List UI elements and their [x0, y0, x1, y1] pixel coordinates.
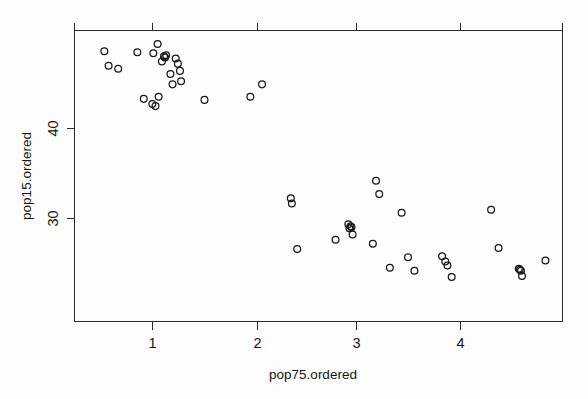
- data-point: [448, 274, 455, 281]
- y-axis-title: pop15.ordered: [19, 132, 34, 220]
- data-point: [542, 257, 549, 264]
- data-point: [178, 78, 185, 85]
- data-point: [411, 267, 418, 274]
- data-point: [405, 254, 412, 261]
- data-point: [177, 67, 184, 74]
- data-point: [134, 49, 141, 56]
- data-point: [442, 258, 449, 265]
- x-tick-label-2: 2: [253, 335, 261, 351]
- data-point: [150, 50, 157, 57]
- data-point: [386, 264, 393, 271]
- plot-canvas: 1 2 3 4 40 30 pop75.ordered pop15.ordere…: [0, 0, 588, 399]
- data-point: [349, 231, 356, 238]
- data-point: [294, 246, 301, 253]
- plot-frame: [74, 30, 563, 322]
- y-tick-label-30: 30: [45, 210, 61, 226]
- data-point: [167, 71, 174, 78]
- data-point: [259, 81, 266, 88]
- data-point: [376, 191, 383, 198]
- data-point: [398, 209, 405, 216]
- data-point: [444, 262, 451, 269]
- data-point: [115, 65, 122, 72]
- data-point: [373, 177, 380, 184]
- x-tick-label-1: 1: [148, 335, 156, 351]
- x-tick-label-3: 3: [352, 335, 360, 351]
- data-point: [201, 96, 208, 103]
- data-point: [332, 236, 339, 243]
- data-point: [495, 245, 502, 252]
- data-point: [169, 81, 176, 88]
- data-points-layer: [101, 41, 549, 281]
- data-point: [140, 95, 147, 102]
- data-point: [369, 240, 376, 247]
- x-axis-ticks-top: [75, 23, 563, 31]
- scatter-plot-figure: 1 2 3 4 40 30 pop75.ordered pop15.ordere…: [0, 0, 588, 399]
- data-point: [154, 41, 161, 48]
- data-point: [101, 48, 108, 55]
- data-point: [488, 206, 495, 213]
- data-point: [155, 93, 162, 100]
- x-axis-ticks-bottom: [153, 322, 461, 330]
- x-tick-label-4: 4: [456, 335, 464, 351]
- data-point: [247, 93, 254, 100]
- x-axis-title: pop75.ordered: [269, 367, 357, 382]
- data-point: [105, 62, 112, 69]
- y-tick-label-40: 40: [45, 120, 61, 136]
- y-axis-ticks: [67, 129, 75, 219]
